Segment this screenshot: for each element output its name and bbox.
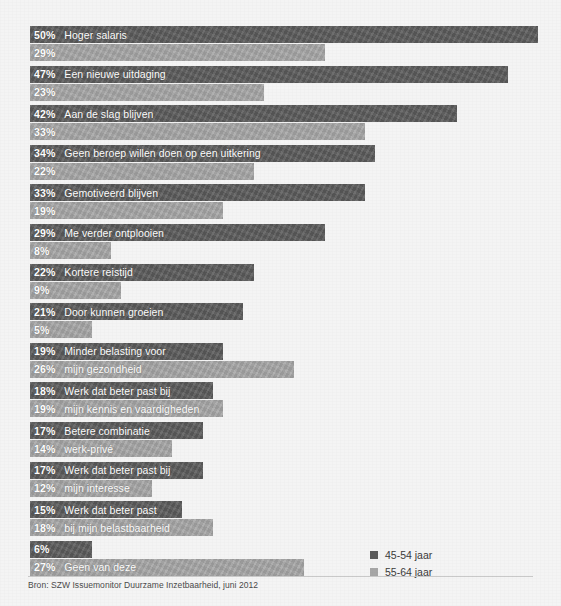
bar-row: 17%Betere combinatie <box>30 422 561 439</box>
source-note: Bron: SZW Issuemonitor Duurzame Inzetbaa… <box>28 580 258 590</box>
bar-row: 19% <box>30 202 561 219</box>
bar-value: 29% <box>30 47 55 59</box>
bar-45-54: 17%Betere combinatie <box>30 422 203 439</box>
bar-55-64: 19%mijn kennis en vaardigheden <box>30 400 223 417</box>
bar-row: 5% <box>30 321 561 338</box>
bar-55-64: 19% <box>30 202 223 219</box>
bar-group: 17%Werk dat beter past bij12%mijn intere… <box>30 462 561 498</box>
bar-45-54: 17%Werk dat beter past bij <box>30 462 203 479</box>
bar-group: 21%Door kunnen groeien5% <box>30 303 561 339</box>
bar-value: 33% <box>30 126 55 138</box>
bar-row: 21%Door kunnen groeien <box>30 303 561 320</box>
bar-45-54: 6% <box>30 541 92 558</box>
bar-55-64: 14%werk-privé <box>30 440 172 457</box>
bar-45-54: 50%Hoger salaris <box>30 26 538 43</box>
bar-45-54: 42%Aan de slag blijven <box>30 105 457 122</box>
bar-category-label: Werk dat beter past <box>64 504 156 516</box>
bar-row: 19%Minder belasting voor <box>30 343 561 360</box>
bar-row: 17%Werk dat beter past bij <box>30 462 561 479</box>
bar-row: 22%Kortere reistijd <box>30 264 561 281</box>
bar-value: 12% <box>30 482 55 494</box>
bar-55-64: 9% <box>30 282 121 299</box>
bar-45-54: 47%Een nieuwe uitdaging <box>30 66 508 83</box>
bar-category-label: Geen beroep willen doen op een uitkering <box>64 147 260 159</box>
bar-45-54: 18%Werk dat beter past bij <box>30 382 213 399</box>
bar-value: 5% <box>30 324 49 336</box>
bar-category-label: Een nieuwe uitdaging <box>64 68 165 80</box>
bar-value: 18% <box>30 385 55 397</box>
bar-category-label: Werk dat beter past bij <box>64 464 170 476</box>
bar-category-label: mijn kennis en vaardigheden <box>64 403 199 415</box>
bar-category-label: Geen van deze <box>64 561 136 573</box>
bar-row: 42%Aan de slag blijven <box>30 105 561 122</box>
bar-value: 27% <box>30 561 55 573</box>
bar-category-label: Minder belasting voor <box>64 345 165 357</box>
bar-value: 34% <box>30 147 55 159</box>
bar-group: 42%Aan de slag blijven33% <box>30 105 561 141</box>
bar-category-label: Door kunnen groeien <box>64 306 163 318</box>
bar-55-64: 27%Geen van deze <box>30 559 304 576</box>
bar-value: 19% <box>30 205 55 217</box>
bar-row: 14%werk-privé <box>30 440 561 457</box>
bar-value: 19% <box>30 345 55 357</box>
bar-value: 22% <box>30 266 55 278</box>
bar-value: 22% <box>30 165 55 177</box>
bar-value: 15% <box>30 504 55 516</box>
bar-55-64: 5% <box>30 321 92 338</box>
bar-value: 29% <box>30 227 55 239</box>
bar-value: 50% <box>30 29 55 41</box>
bar-category-label: Werk dat beter past bij <box>64 385 170 397</box>
bar-category-label: mijn interesse <box>64 482 129 494</box>
bar-value: 8% <box>30 245 49 257</box>
bar-45-54: 15%Werk dat beter past <box>30 501 182 518</box>
bar-value: 19% <box>30 403 55 415</box>
bar-row: 12%mijn interesse <box>30 480 561 497</box>
bar-category-label: Kortere reistijd <box>64 266 133 278</box>
bar-value: 47% <box>30 68 55 80</box>
bar-group: 29%Me verder ontplooien8% <box>30 224 561 260</box>
bar-row: 29%Me verder ontplooien <box>30 224 561 241</box>
bar-row: 15%Werk dat beter past <box>30 501 561 518</box>
legend-swatch-45-54-icon <box>370 551 378 559</box>
bar-group: 6%27%Geen van deze <box>30 541 561 577</box>
bar-row: 27%Geen van deze <box>30 559 561 576</box>
bar-category-label: Gemotiveerd blijven <box>64 187 158 199</box>
bar-55-64: 23% <box>30 84 264 101</box>
bar-value: 9% <box>30 284 49 296</box>
bar-group: 19%Minder belasting voor26%mijn gezondhe… <box>30 343 561 379</box>
bar-value: 18% <box>30 522 55 534</box>
bar-category-label: Aan de slag blijven <box>64 108 153 120</box>
bar-row: 23% <box>30 84 561 101</box>
bar-value: 33% <box>30 187 55 199</box>
bar-value: 21% <box>30 306 55 318</box>
bar-value: 17% <box>30 425 55 437</box>
bar-group: 47%Een nieuwe uitdaging23% <box>30 66 561 102</box>
bar-value: 42% <box>30 108 55 120</box>
chart-legend: 45-54 jaar 55-64 jaar <box>370 549 432 583</box>
bar-row: 33%Gemotiveerd blijven <box>30 184 561 201</box>
bar-value: 23% <box>30 86 55 98</box>
bar-45-54: 19%Minder belasting voor <box>30 343 223 360</box>
bar-value: 6% <box>30 543 49 555</box>
bar-group: 22%Kortere reistijd9% <box>30 264 561 300</box>
bar-group: 18%Werk dat beter past bij19%mijn kennis… <box>30 382 561 418</box>
bar-55-64: 29% <box>30 44 325 61</box>
bar-value: 26% <box>30 363 55 375</box>
bar-chart: 50%Hoger salaris29%47%Een nieuwe uitdagi… <box>0 0 561 606</box>
bar-category-label: Hoger salaris <box>64 29 127 41</box>
bar-45-54: 33%Gemotiveerd blijven <box>30 184 365 201</box>
bar-group: 50%Hoger salaris29% <box>30 26 561 62</box>
bar-55-64: 12%mijn interesse <box>30 480 152 497</box>
bar-row: 6% <box>30 541 561 558</box>
bar-55-64: 26%mijn gezondheid <box>30 361 294 378</box>
bar-45-54: 22%Kortere reistijd <box>30 264 254 281</box>
bar-value: 14% <box>30 443 55 455</box>
bar-row: 34%Geen beroep willen doen op een uitker… <box>30 145 561 162</box>
bar-group: 33%Gemotiveerd blijven19% <box>30 184 561 220</box>
bar-group: 17%Betere combinatie14%werk-privé <box>30 422 561 458</box>
bar-row: 9% <box>30 282 561 299</box>
legend-swatch-55-64-icon <box>370 568 378 576</box>
bar-category-label: Betere combinatie <box>64 425 149 437</box>
bar-category-label: werk-privé <box>64 443 113 455</box>
bar-55-64: 22% <box>30 163 254 180</box>
